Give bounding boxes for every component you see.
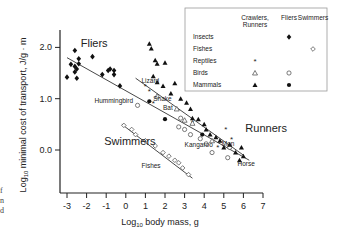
data-point-filled-triangle (153, 58, 158, 63)
legend-marker-filled-circle (287, 83, 291, 87)
side-text-fragment: n (0, 196, 4, 205)
legend-marker-open-circle (287, 71, 291, 75)
legend-column-header: Crawlers, (241, 14, 269, 21)
regression-line-swimmers (122, 124, 193, 178)
legend-row-label: Reptiles (193, 57, 217, 65)
data-point-filled-diamond (90, 54, 95, 60)
legend-marker-asterisk: * (253, 57, 256, 66)
data-point-filled-diamond (118, 83, 123, 89)
data-point-filled-diamond (76, 56, 81, 62)
data-point-open-circle (179, 116, 183, 120)
x-tick-label: 6 (241, 201, 246, 211)
data-point-asterisk: * (148, 87, 151, 96)
data-point-filled-triangle (202, 122, 207, 127)
data-point-filled-triangle (196, 117, 201, 122)
data-point-filled-diamond (73, 48, 78, 54)
data-point-filled-circle (163, 117, 167, 121)
data-point-open-circle (183, 127, 187, 131)
annotation-fishes: Fishes (141, 162, 161, 169)
annotation-lizard: Lizard (141, 77, 159, 84)
group-label-swimmers: Swimmers (104, 135, 156, 147)
side-text-fragment: f (0, 186, 3, 195)
annotation-kangaroo: Kangaroo (185, 141, 214, 149)
legend-column-header: Swimmers (298, 14, 329, 21)
data-point-open-circle (198, 137, 202, 141)
x-axis-label: Log10 body mass, g (121, 217, 199, 228)
data-point-filled-diamond (76, 61, 81, 67)
data-point-filled-triangle (163, 60, 168, 65)
x-tick-label: 5 (221, 201, 226, 211)
data-point-filled-diamond (65, 74, 70, 80)
x-tick-label: 1 (143, 201, 148, 211)
data-point-filled-triangle (149, 46, 154, 51)
legend-column-header: Fliers (281, 14, 298, 21)
data-point-filled-triangle (161, 83, 166, 88)
data-point-filled-triangle (178, 96, 183, 101)
data-point-open-circle (210, 150, 214, 154)
data-point-filled-triangle (239, 145, 244, 150)
legend-column-header: Runners (243, 21, 268, 28)
data-point-open-circle (226, 156, 230, 160)
annotation-bat: Bat (163, 104, 173, 111)
data-point-filled-diamond (112, 72, 117, 78)
side-text-fragment: d (0, 206, 4, 215)
data-point-asterisk: * (216, 143, 219, 152)
y-tick-label: 1.0 (39, 94, 52, 104)
data-point-filled-triangle (184, 100, 189, 105)
x-tick-label: -2 (83, 201, 91, 211)
x-tick-label: 7 (260, 201, 265, 211)
x-tick-label: 2 (162, 201, 167, 211)
annotation-man: Man (222, 140, 235, 147)
data-point-asterisk: * (224, 125, 227, 134)
data-point-filled-circle (200, 133, 204, 137)
x-tick-label: 4 (202, 201, 207, 211)
scatter-plot: -3-2-1012345670.01.02.0Log10 body mass, … (0, 0, 342, 238)
legend-row-label: Fishes (193, 45, 213, 52)
data-point-filled-diamond (75, 75, 80, 81)
y-tick-label: 0.0 (39, 145, 52, 155)
group-label-fliers: Fliers (81, 37, 108, 49)
data-point-open-circle (188, 133, 192, 137)
data-point-filled-triangle (147, 41, 152, 46)
annotation-hummingbird: Hummingbird (94, 97, 133, 105)
y-axis-label: Log10 minimal cost of transport, J/g · m (18, 38, 29, 193)
annotation-horse: Horse (238, 160, 256, 167)
group-label-runners: Runners (245, 122, 287, 134)
data-point-open-diamond (167, 154, 172, 159)
data-point-open-circle (135, 103, 139, 107)
x-tick-label: 0 (123, 201, 128, 211)
data-point-filled-triangle (188, 106, 193, 111)
data-point-filled-diamond (69, 62, 74, 68)
x-tick-label: -3 (63, 201, 71, 211)
data-point-open-diamond (176, 161, 181, 166)
x-tick-label: 3 (182, 201, 187, 211)
x-tick-label: -1 (102, 201, 110, 211)
legend-row-label: Birds (193, 69, 209, 76)
annotation-snake: Snake (153, 95, 172, 102)
data-point-filled-triangle (172, 81, 177, 86)
legend-row-label: Insects (193, 33, 214, 40)
chart-figure: -3-2-1012345670.01.02.0Log10 body mass, … (0, 0, 342, 238)
data-point-open-diamond (173, 158, 178, 163)
y-tick-label: 2.0 (39, 42, 52, 52)
data-point-open-circle (177, 125, 181, 129)
legend-row-label: Mammals (193, 81, 222, 88)
